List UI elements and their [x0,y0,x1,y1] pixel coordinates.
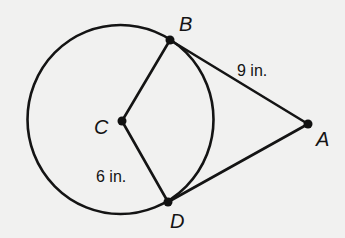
label-d: D [170,210,184,232]
point-b [166,36,175,45]
geometry-diagram: A B C D 9 in. 6 in. [0,0,345,238]
length-ab-label: 9 in. [237,62,267,79]
background [0,0,345,238]
label-c: C [94,116,109,138]
length-cd-label: 6 in. [96,168,126,185]
point-d [164,198,173,207]
label-a: A [315,128,329,150]
label-b: B [179,13,192,35]
point-a [304,120,313,129]
point-c [118,117,127,126]
